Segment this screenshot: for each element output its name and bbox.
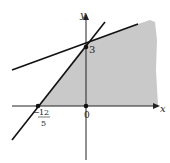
point-origin <box>84 104 89 109</box>
x-axis-label: x <box>160 103 166 114</box>
x-intercept-denominator: 5 <box>41 119 46 128</box>
shaded-region <box>38 20 158 106</box>
x-intercept-numerator: 12 <box>39 108 49 117</box>
origin-label: 0 <box>84 110 90 120</box>
y-axis-label: y <box>79 9 86 20</box>
diagram-canvas: y x 3 0 − 12 5 <box>0 0 170 163</box>
y-intercept-label: 3 <box>89 44 95 55</box>
point-y-intercept <box>84 45 89 50</box>
